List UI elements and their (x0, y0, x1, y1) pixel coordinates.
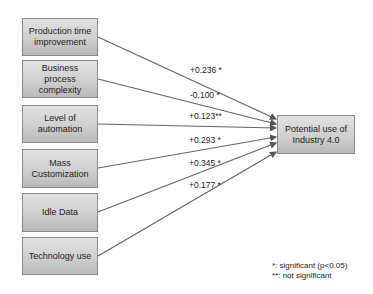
coefficient-label: +0.345 * (189, 158, 221, 168)
coefficient-label: +0.123** (189, 111, 222, 121)
coefficient-label: +0.177 * (189, 180, 221, 190)
coefficient-label: +0.293 * (189, 135, 221, 145)
outcome-label: Potential use of Industry 4.0 (283, 124, 349, 146)
predictor-box-production-time: Production time improvement (22, 18, 98, 56)
coefficient-label: +0.236 * (190, 65, 222, 75)
predictor-label: Level of automation (35, 113, 85, 135)
predictor-label: Business process complexity (25, 63, 95, 96)
predictor-box-level-automation: Level of automation (22, 105, 98, 143)
predictor-box-mass-customization: Mass Customization (22, 149, 98, 188)
significance-legend: *: significant (p<0.05) **: not signific… (272, 261, 347, 281)
predictor-box-idle-data: Idle Data (22, 193, 98, 232)
legend-significant: *: significant (p<0.05) (272, 261, 347, 271)
predictor-label: Idle Data (42, 207, 78, 218)
legend-not-significant: **: not significant (272, 271, 347, 281)
predictor-label: Technology use (29, 251, 92, 262)
predictor-label: Production time improvement (25, 26, 95, 48)
coefficient-label: -0.100 * (190, 90, 220, 100)
outcome-box-industry-4: Potential use of Industry 4.0 (277, 115, 355, 154)
predictor-label: Mass Customization (27, 158, 93, 180)
predictor-box-technology-use: Technology use (22, 237, 98, 275)
predictor-box-business-process: Business process complexity (22, 60, 98, 98)
